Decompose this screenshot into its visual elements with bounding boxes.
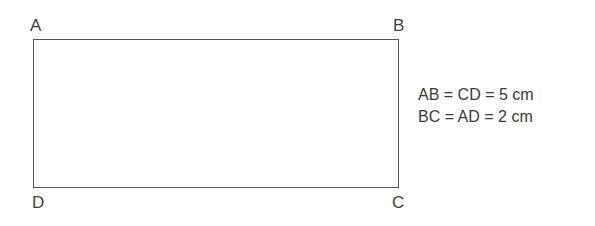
side-length-bc-ad: BC = AD = 2 cm [418, 108, 533, 126]
side-length-ab-cd: AB = CD = 5 cm [418, 86, 534, 104]
vertex-label-a: A [30, 17, 41, 34]
rectangle-abcd [33, 39, 399, 188]
vertex-label-c: C [392, 194, 404, 211]
vertex-label-d: D [32, 194, 44, 211]
vertex-label-b: B [393, 17, 404, 34]
